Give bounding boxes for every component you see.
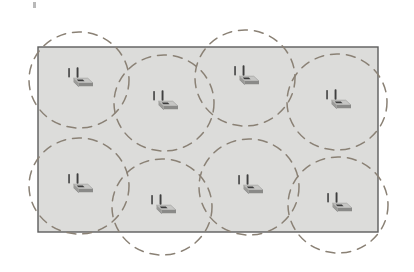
scan-speck-top-left — [33, 2, 36, 8]
coverage-diagram-canvas — [0, 0, 414, 272]
wireless-coverage-figure: Rectangular deployment area containing e… — [0, 0, 414, 272]
